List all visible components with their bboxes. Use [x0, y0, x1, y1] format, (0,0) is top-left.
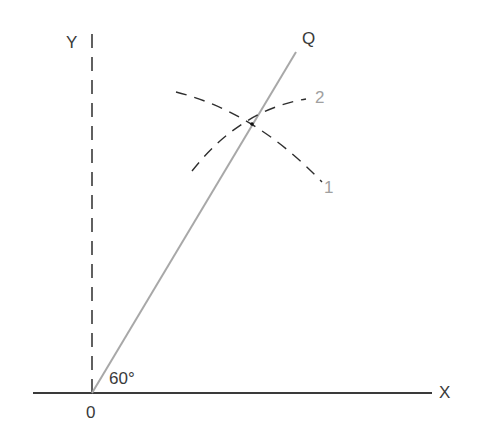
diagram-graphics: [0, 0, 482, 439]
arc-2: [192, 99, 306, 171]
ray-q-label: Q: [302, 30, 315, 47]
x-axis-label: X: [439, 384, 450, 401]
ray-oq: [92, 52, 296, 393]
angle-label: 60°: [109, 370, 135, 387]
construction-diagram: Y Q 2 1 60° 0 X: [0, 0, 482, 439]
arc-1-label: 1: [324, 179, 333, 196]
y-axis-label: Y: [66, 34, 77, 51]
intersection-point: [250, 122, 254, 126]
arc-2-label: 2: [315, 89, 324, 106]
arc-1: [176, 92, 322, 182]
origin-label: 0: [86, 404, 95, 421]
